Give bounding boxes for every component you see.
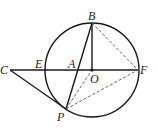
segment-pf bbox=[66, 70, 138, 109]
label-b: B bbox=[88, 9, 96, 23]
label-p: P bbox=[56, 110, 65, 124]
segment-bf bbox=[92, 23, 138, 70]
label-e: E bbox=[34, 57, 43, 71]
label-o: O bbox=[90, 72, 99, 86]
geometry-figure: B C E A O F P bbox=[0, 0, 158, 131]
segment-po bbox=[66, 70, 92, 109]
segment-cp bbox=[10, 70, 66, 109]
label-f: F bbox=[139, 63, 148, 77]
label-a: A bbox=[67, 57, 76, 71]
label-c: C bbox=[0, 63, 9, 77]
